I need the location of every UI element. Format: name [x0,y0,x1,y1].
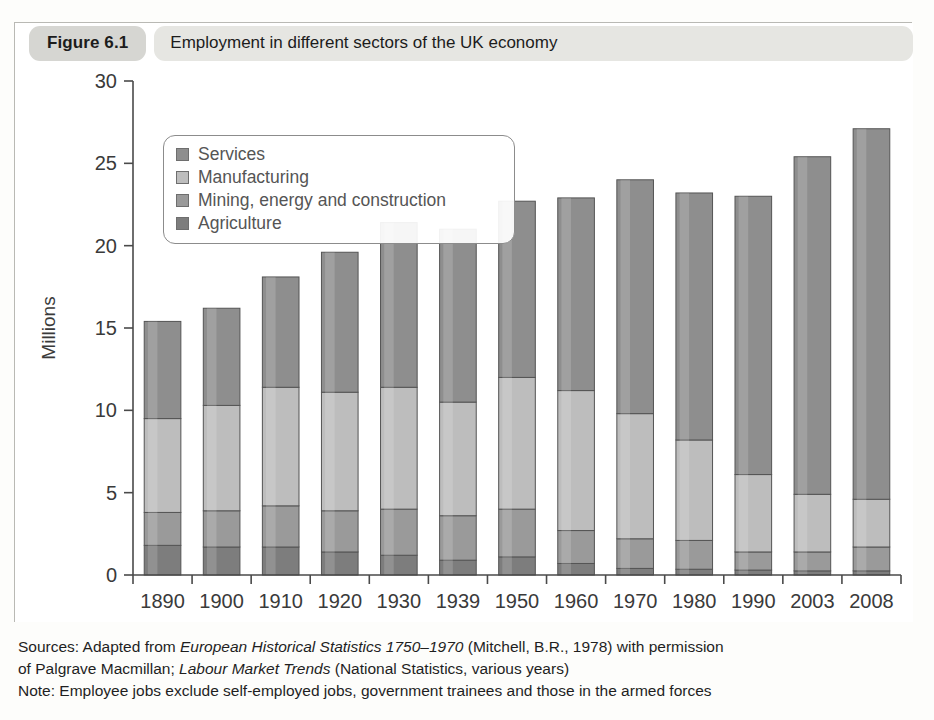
y-tick-label: 10 [95,399,117,421]
sources-text-a: Sources: Adapted from [18,638,180,655]
y-tick-label: 30 [95,70,117,92]
sources-title-1: European Historical Statistics 1750–1970 [180,638,463,655]
legend-swatch-mining [176,194,189,207]
sources-line-2: of Palgrave Macmillan; Labour Market Tre… [18,658,918,680]
y-tick-label: 20 [95,235,117,257]
figure-title-bar: Figure 6.1 Employment in different secto… [15,23,913,63]
legend-item-agriculture: Agriculture [176,212,502,235]
bar-highlight [443,229,453,575]
bar-highlight [739,196,749,575]
bar-highlight [384,223,394,575]
y-tick-label: 5 [106,482,117,504]
legend-label-agriculture: Agriculture [198,215,282,233]
figure-card: Figure 6.1 Employment in different secto… [14,22,912,622]
bar-highlight [798,157,808,575]
x-tick-label: 1920 [318,590,363,612]
x-tick-label: 1980 [672,590,717,612]
x-tick-label: 1950 [495,590,540,612]
legend-label-mining: Mining, energy and construction [198,192,446,210]
x-tick-label: 1910 [258,590,303,612]
bar-highlight [502,201,512,575]
legend-swatch-services [176,148,189,161]
figure-root: Figure 6.1 Employment in different secto… [0,0,934,720]
figure-number-badge: Figure 6.1 [29,26,146,61]
bar-highlight [266,277,276,575]
y-tick-label: 15 [95,317,117,339]
sources-text-b: (Mitchell, B.R., 1978) with permission [463,638,723,655]
bar-highlight [561,198,571,575]
y-axis-label: Millions [38,296,59,359]
y-tick-label: 0 [106,564,117,586]
legend-item-manufacturing: Manufacturing [176,166,502,189]
legend-label-manufacturing: Manufacturing [198,169,309,187]
figure-notes: Sources: Adapted from European Historica… [18,636,918,702]
x-tick-label: 1890 [140,590,185,612]
figure-title: Employment in different sectors of the U… [154,26,913,61]
bar-highlight [325,252,335,575]
bar-highlight [207,308,217,575]
x-axis: 1890190019101920193019391950196019701980… [133,575,901,612]
legend-swatch-manufacturing [176,171,189,184]
legend-item-mining: Mining, energy and construction [176,189,502,212]
legend-label-services: Services [198,146,265,164]
sources-text-d: (National Statistics, various years) [330,660,569,677]
x-tick-label: 2003 [790,590,835,612]
x-tick-label: 1900 [199,590,244,612]
bar-highlight [857,129,867,575]
x-tick-label: 1970 [613,590,658,612]
sources-text-c: of Palgrave Macmillan; [18,660,179,677]
x-tick-label: 2008 [849,590,894,612]
bar-highlight [148,321,158,575]
x-tick-label: 1960 [554,590,599,612]
note-line: Note: Employee jobs exclude self-employe… [18,680,918,702]
legend-swatch-agriculture [176,217,189,230]
x-tick-label: 1930 [377,590,422,612]
y-tick-label: 25 [95,152,117,174]
bar-highlight [621,180,631,575]
y-axis: 051015202530Millions [38,70,133,586]
sources-title-2: Labour Market Trends [179,660,330,677]
x-tick-label: 1990 [731,590,776,612]
bar-highlight [680,193,690,575]
sources-line-1: Sources: Adapted from European Historica… [18,636,918,658]
legend-item-services: Services [176,143,502,166]
chart-plot-area: 051015202530Millions 1890190019101920193… [15,63,913,622]
chart-legend: Services Manufacturing Mining, energy an… [163,135,515,244]
x-tick-label: 1939 [436,590,481,612]
